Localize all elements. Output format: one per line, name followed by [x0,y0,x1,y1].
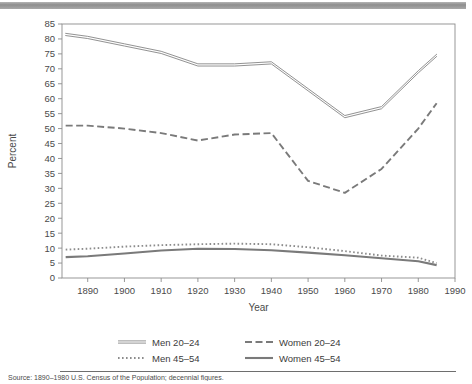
y-tick-label: 65 [44,78,55,89]
series-line-stroke [66,36,437,118]
source-note: Source: 1890–1980 U.S. Census of the Pop… [8,374,468,381]
legend-label: Men 45–54 [152,353,200,364]
y-tick-label: 75 [44,48,55,59]
y-tick-label: 35 [44,168,55,179]
x-axis-title: Year [248,302,269,313]
x-tick-label: 1960 [334,285,355,296]
x-tick-label: 1940 [261,285,282,296]
x-tick-label: 1900 [114,285,135,296]
chart-figure: 0510152025303540455055606570758085189019… [0,9,472,384]
series-line [66,103,437,193]
x-tick-label: 1920 [187,285,208,296]
x-tick-label: 1930 [224,285,245,296]
y-tick-label: 10 [44,243,55,254]
legend-label: Women 20–24 [279,337,341,348]
x-tick-label: 1980 [408,285,429,296]
x-tick-label: 1910 [151,285,172,296]
legend-label: Women 45–54 [279,353,341,364]
x-tick-label: 1970 [371,285,392,296]
legend-label: Men 20–24 [152,337,200,348]
y-tick-label: 80 [44,33,55,44]
series-line [66,33,437,117]
x-tick-label: 1890 [77,285,98,296]
y-tick-label: 30 [44,183,55,194]
chart-legend: Men 20–24Women 20–24Men 45–54Women 45–54 [118,337,341,364]
y-tick-label: 40 [44,153,55,164]
y-tick-label: 0 [50,272,55,283]
chart-axes: 0510152025303540455055606570758085189019… [7,18,466,313]
window-top-bar [0,2,466,9]
y-tick-label: 5 [50,257,55,268]
chart-series [66,33,437,265]
y-tick-label: 60 [44,93,55,104]
y-tick-label: 25 [44,198,55,209]
y-tick-label: 55 [44,108,55,119]
x-tick-label: 1990 [444,285,465,296]
y-tick-label: 70 [44,63,55,74]
line-chart: 0510152025303540455055606570758085189019… [0,9,472,384]
y-tick-label: 50 [44,123,55,134]
x-tick-label: 1950 [298,285,319,296]
y-axis-title: Percent [7,134,18,169]
y-tick-label: 20 [44,213,55,224]
footer-divider [60,371,456,372]
y-tick-label: 45 [44,138,55,149]
series-line [66,249,437,265]
y-tick-label: 15 [44,228,55,239]
y-tick-label: 85 [44,18,55,29]
